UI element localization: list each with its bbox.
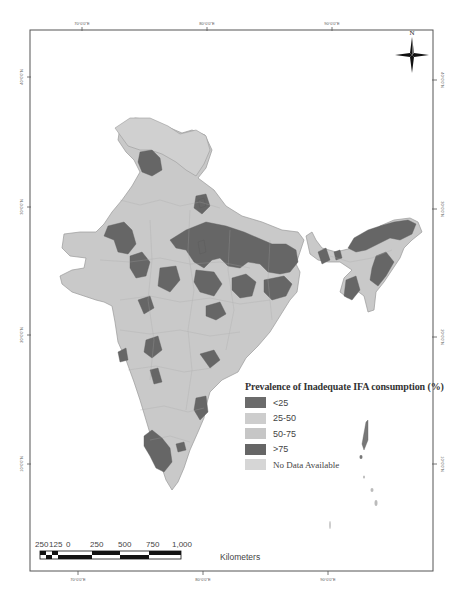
lakshadweep-islands: [329, 521, 331, 529]
map-canvas: 70°0'0"E 80°0'0"E 90°0'0"E 70°0'0"E 80°0…: [0, 0, 463, 594]
scale-tick: 750: [146, 540, 159, 549]
lon-label-bottom-90: 90°0'0"E: [320, 577, 336, 582]
lon-label-70: 70°0'0"E: [74, 21, 90, 26]
legend-title: Prevalence of Inadequate IFA consumption…: [245, 381, 445, 392]
scale-unit: Kilometers: [220, 552, 260, 562]
scale-bar-graphic: [40, 551, 181, 559]
legend-swatch-lt25: [245, 397, 266, 408]
legend-label: 25-50: [273, 413, 296, 423]
legend-swatch-no-data: [245, 459, 266, 470]
scale-tick: 250: [90, 540, 103, 549]
lat-label-30: 30°0'0"N: [19, 199, 24, 215]
scale-tick: 250: [35, 540, 48, 549]
legend-label: 50-75: [273, 429, 296, 439]
lat-label-right-30: 30°0'0"N: [440, 201, 445, 217]
legend-swatch-25-50: [245, 413, 266, 424]
scale-tick: 1,000: [172, 540, 192, 549]
legend-label: No Data Available: [273, 460, 339, 470]
lat-label-40: 40°0'0"N: [19, 69, 24, 85]
lat-label-10: 10°0'0"N: [19, 456, 24, 472]
legend: Prevalence of Inadequate IFA consumption…: [245, 381, 445, 473]
legend-item: No Data Available: [245, 457, 445, 473]
legend-item: >75: [245, 442, 445, 458]
legend-swatch-gt75: [245, 444, 266, 455]
legend-label: >75: [273, 444, 288, 454]
latitude-ticks-left: 40°0'0"N 30°0'0"N 20°0'0"N 10°0'0"N: [19, 69, 31, 472]
lon-label-bottom-80: 80°0'0"E: [195, 577, 211, 582]
lat-label-right-20: 20°0'0"N: [440, 329, 445, 345]
lon-label-80: 80°0'0"E: [199, 21, 215, 26]
longitude-ticks-bottom: 70°0'0"E 80°0'0"E 90°0'0"E: [70, 571, 336, 582]
scale-tick: 0: [66, 540, 70, 549]
legend-item: <25: [245, 395, 445, 411]
lat-label-right-40: 40°0'0"N: [440, 72, 445, 88]
legend-item: 25-50: [245, 411, 445, 427]
scale-tick: 125: [49, 540, 62, 549]
scale-tick: 500: [118, 540, 131, 549]
legend-swatch-50-75: [245, 428, 266, 439]
lon-label-bottom-70: 70°0'0"E: [70, 577, 86, 582]
svg-text:N: N: [409, 29, 414, 37]
lat-label-20: 20°0'0"N: [19, 327, 24, 343]
lon-label-90: 90°0'0"E: [324, 21, 340, 26]
legend-item: 50-75: [245, 426, 445, 442]
legend-label: <25: [273, 398, 288, 408]
north-arrow-icon: N: [395, 29, 429, 73]
